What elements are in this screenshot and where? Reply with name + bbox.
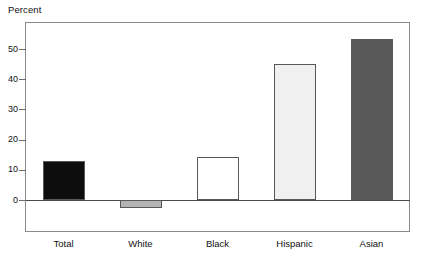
x-axis-label-black: Black [179, 238, 256, 249]
x-axis-label-hispanic: Hispanic [256, 238, 333, 249]
bar-total [43, 161, 85, 200]
bar-asian [351, 39, 393, 200]
bars-group [0, 0, 422, 265]
bar-black [197, 157, 239, 200]
bar-hispanic [274, 64, 316, 200]
bar-chart: Percent 01020304050 TotalWhiteBlackHispa… [0, 0, 422, 265]
x-axis-label-asian: Asian [333, 238, 410, 249]
x-axis-label-white: White [102, 238, 179, 249]
x-axis-label-total: Total [25, 238, 102, 249]
bar-white [120, 200, 162, 208]
